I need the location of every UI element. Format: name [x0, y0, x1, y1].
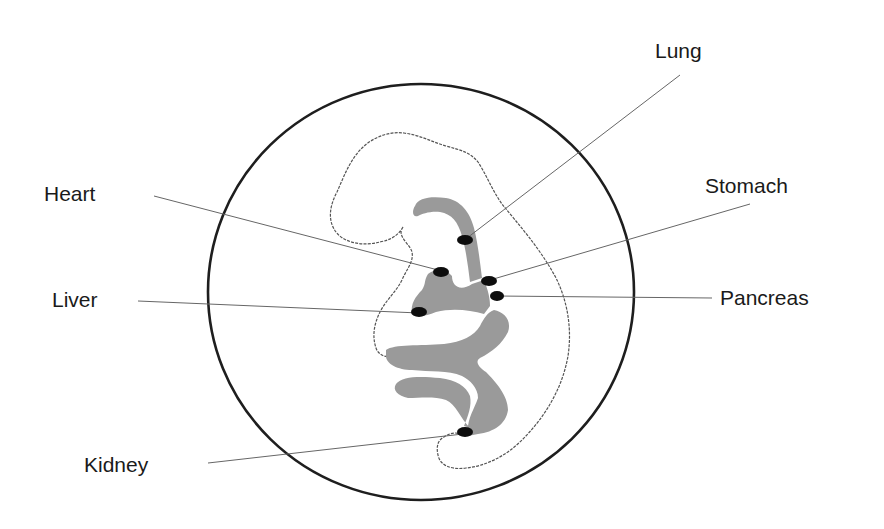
stomach-dot	[481, 276, 497, 286]
kidney-dot	[457, 427, 473, 437]
lung-dot	[457, 235, 473, 245]
leader-line-kidney	[208, 434, 463, 463]
label-stomach: Stomach	[705, 175, 788, 196]
label-kidney: Kidney	[84, 454, 148, 475]
gut-tube	[386, 197, 509, 436]
label-heart: Heart	[44, 183, 95, 204]
leader-line-liver	[138, 301, 419, 313]
label-lung: Lung	[655, 40, 702, 61]
label-pancreas: Pancreas	[720, 287, 809, 308]
liver-dot	[411, 307, 427, 317]
leader-line-pancreas	[496, 296, 712, 298]
label-liver: Liver	[52, 289, 98, 310]
pancreas-dot	[490, 291, 504, 301]
leader-line-heart	[154, 196, 438, 270]
heart-dot	[433, 267, 449, 277]
embryo-diagram	[0, 0, 884, 529]
